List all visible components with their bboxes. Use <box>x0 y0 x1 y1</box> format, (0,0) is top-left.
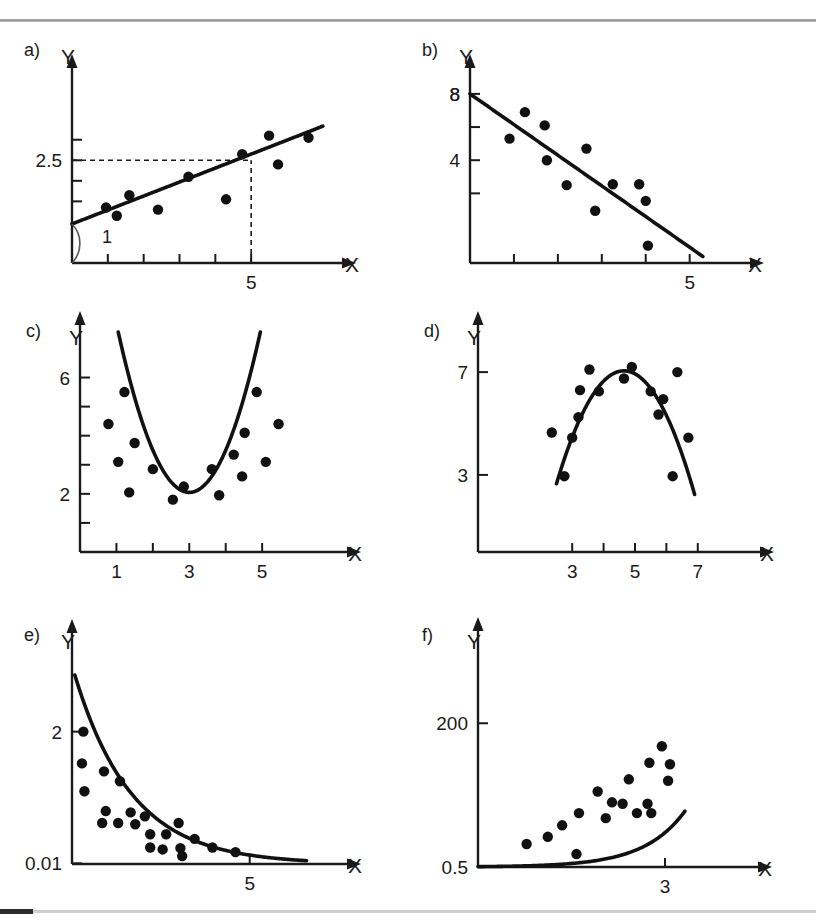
data-point <box>214 490 224 500</box>
data-point <box>173 818 183 828</box>
x-ticks-b: 5 <box>514 254 695 293</box>
data-point <box>189 834 199 844</box>
data-point <box>207 842 217 852</box>
top-rule-divider <box>0 19 816 22</box>
x-ticks-d: 357 <box>567 543 703 582</box>
data-point <box>624 774 634 784</box>
data-point <box>101 806 111 816</box>
x-ticks-a: 5 <box>108 254 257 293</box>
data-point <box>559 471 569 481</box>
data-point <box>78 726 88 736</box>
data-point <box>567 432 577 442</box>
data-point <box>179 481 189 491</box>
data-point <box>79 786 89 796</box>
data-point <box>221 194 231 204</box>
data-point <box>237 471 247 481</box>
data-point <box>619 373 629 383</box>
panel-c: c)YX13526 <box>0 309 408 609</box>
data-point <box>542 155 552 165</box>
data-point <box>273 419 283 429</box>
data-point <box>125 807 135 817</box>
data-point <box>665 759 675 769</box>
figure-sheet: a)YX52.51 b)YX5488 c)YX13526 d)YX35737 e… <box>0 0 816 921</box>
data-point <box>683 432 693 442</box>
axes-e <box>67 619 362 870</box>
data-point <box>140 811 150 821</box>
data-point <box>520 107 530 117</box>
fit-curve-e <box>75 675 307 861</box>
chart-c: c)YX13526 <box>0 309 408 609</box>
data-point <box>504 133 514 143</box>
data-point <box>667 471 677 481</box>
y-intercept-label-b: 8 <box>449 84 460 105</box>
y-tick-label-e-0.01: 0.01 <box>25 853 62 874</box>
y-ticks-e: 0.012 <box>25 722 82 875</box>
y-ticks-c: 26 <box>59 368 90 523</box>
data-points-d <box>547 362 694 482</box>
data-point <box>161 829 171 839</box>
data-point <box>145 842 155 852</box>
panel-f: f)YX30.5200 <box>408 609 816 906</box>
data-point <box>592 786 602 796</box>
data-point <box>539 120 549 130</box>
data-point <box>77 758 87 768</box>
panel-letter-e: e) <box>24 625 40 645</box>
data-point <box>124 190 134 200</box>
data-point <box>617 799 627 809</box>
x-tick-label-c-3: 3 <box>184 561 195 582</box>
data-point <box>627 362 637 372</box>
data-point <box>230 847 240 857</box>
panel-letter-a: a) <box>24 40 40 60</box>
chart-a: a)YX52.51 <box>0 26 408 309</box>
x-tick-label-d-7: 7 <box>692 561 703 582</box>
y-tick-label-a-2.5: 2.5 <box>36 150 62 171</box>
y-tick-label-f-200: 200 <box>436 713 468 734</box>
data-point <box>124 487 134 497</box>
data-point <box>575 385 585 395</box>
chart-d: d)YX35737 <box>408 309 816 609</box>
chart-e: e)YX50.012 <box>0 609 408 906</box>
data-point <box>641 196 651 206</box>
data-point <box>148 464 158 474</box>
data-point <box>581 143 591 153</box>
y-tick-label-d-3: 3 <box>457 465 468 486</box>
data-point <box>557 820 567 830</box>
data-point <box>663 776 673 786</box>
data-point <box>251 387 261 397</box>
x-ticks-c: 135 <box>111 543 267 582</box>
data-point <box>153 204 163 214</box>
data-point <box>573 412 583 422</box>
data-point <box>237 149 247 159</box>
data-point <box>101 202 111 212</box>
fit-curve-b <box>470 94 703 257</box>
y-tick-label-f-0.5: 0.5 <box>442 857 468 878</box>
bottom-rule-divider <box>0 910 816 913</box>
slope-angle-label: 1 <box>102 227 112 247</box>
data-point <box>658 394 668 404</box>
data-point <box>547 427 557 437</box>
fit-curve-c <box>118 332 260 492</box>
x-tick-label-c-1: 1 <box>111 561 122 582</box>
data-point <box>574 808 584 818</box>
data-point <box>239 428 249 438</box>
x-tick-label-a-5: 5 <box>246 272 257 293</box>
panel-d: d)YX35737 <box>408 309 816 609</box>
panel-letter-b: b) <box>422 40 438 60</box>
chart-f: f)YX30.5200 <box>408 609 816 906</box>
panel-a: a)YX52.51 <box>0 26 408 309</box>
y-ticks-a: 2.5 <box>36 140 82 202</box>
axes-f <box>473 617 773 873</box>
data-point <box>129 438 139 448</box>
data-point <box>646 808 656 818</box>
y-tick-label-e-2: 2 <box>51 722 62 743</box>
data-point <box>561 180 571 190</box>
y-ticks-d: 37 <box>457 362 488 486</box>
x-tick-label-f-3: 3 <box>660 876 671 897</box>
y-tick-label-c-2: 2 <box>59 484 70 505</box>
bottom-rule-cap <box>0 909 33 914</box>
data-point <box>112 211 122 221</box>
axes-b <box>465 54 765 269</box>
data-point <box>168 494 178 504</box>
panel-letter-d: d) <box>424 321 440 341</box>
y-tick-label-b-4: 4 <box>449 150 460 171</box>
